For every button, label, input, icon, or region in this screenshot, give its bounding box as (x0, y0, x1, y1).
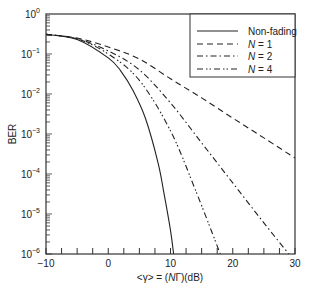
legend-label-n4: N = 4 (248, 64, 273, 75)
legend-label-nonfading: Non-fading (248, 26, 297, 37)
x-tick-label: 10 (165, 258, 177, 269)
y-tick-label: 10−5 (21, 207, 40, 220)
x-tick-label: −10 (38, 258, 55, 269)
x-axis-title: <γ> = (NΓ)(dB) (137, 272, 203, 283)
y-tick-label: 100 (25, 7, 40, 20)
y-axis-title: BER (7, 124, 18, 145)
y-tick-label: 10−4 (21, 167, 40, 180)
legend-box (190, 14, 295, 77)
legend-label-n2: N = 2 (248, 51, 273, 62)
y-tick-labels: 10010−110−210−310−410−510−6 (21, 7, 40, 260)
x-tick-label: 30 (289, 258, 301, 269)
ber-chart: 10010−110−210−310−410−510−6 −100102030 B… (0, 0, 309, 291)
y-tick-label: 10−2 (21, 87, 40, 100)
curve-non-fading (46, 34, 174, 254)
x-tick-labels: −100102030 (38, 258, 301, 269)
y-tick-label: 10−3 (21, 127, 40, 140)
legend: Non-fading N = 1 N = 2 N = 4 (190, 14, 297, 77)
x-tick-label: 0 (105, 258, 111, 269)
x-tick-label: 20 (227, 258, 239, 269)
legend-label-n1: N = 1 (248, 39, 273, 50)
y-tick-label: 10−1 (21, 47, 40, 60)
